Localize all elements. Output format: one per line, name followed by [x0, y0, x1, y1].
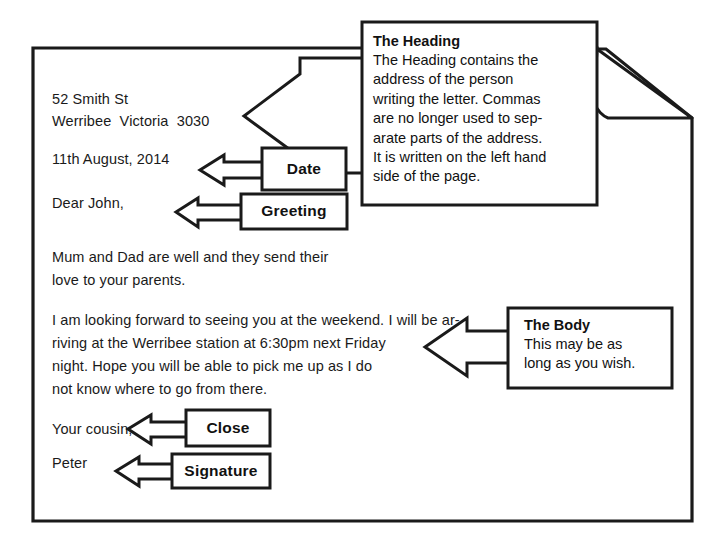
body-callout-line-1: This may be as	[524, 335, 669, 354]
letter-body-p1-line2: love to your parents.	[52, 269, 185, 292]
letter-close: Your cousin,	[52, 418, 132, 441]
body-callout: The Body This may be as long as you wish…	[524, 316, 669, 374]
heading-callout-line-1: The Heading contains the	[373, 51, 593, 70]
body-callout-line-2: long as you wish.	[524, 354, 669, 373]
heading-callout-line-4: are no longer used to sep-	[373, 109, 593, 128]
letter-signature: Peter	[52, 452, 87, 475]
heading-callout-line-5: arate parts of the address.	[373, 129, 593, 148]
heading-callout-line-2: address of the person	[373, 70, 593, 89]
heading-callout-line-6: It is written on the left hand	[373, 148, 593, 167]
date-label-text: Date	[262, 160, 346, 178]
heading-callout-line-3: writing the letter. Commas	[373, 90, 593, 109]
signature-label-text: Signature	[172, 462, 270, 480]
letter-body-p2-line1: I am looking forward to seeing you at th…	[52, 309, 460, 332]
heading-callout-line-7: side of the page.	[373, 167, 593, 186]
letter-body-p1-line1: Mum and Dad are well and they send their	[52, 246, 328, 269]
letter-body-p2-line2: riving at the Werribee station at 6:30pm…	[52, 332, 386, 355]
greeting-label-text: Greeting	[241, 202, 347, 220]
letter-heading-line2: Werribee Victoria 3030	[52, 110, 209, 133]
letter-date: 11th August, 2014	[52, 148, 170, 171]
letter-body-p2-line4: not know where to go from there.	[52, 378, 267, 401]
letter-body-p2-line3: night. Hope you will be able to pick me …	[52, 355, 372, 378]
heading-callout-title: The Heading	[373, 32, 593, 51]
letter-greeting: Dear John,	[52, 192, 124, 215]
close-label-text: Close	[186, 419, 270, 437]
letter-heading-line1: 52 Smith St	[52, 88, 128, 111]
heading-callout: The Heading The Heading contains the add…	[373, 32, 593, 187]
body-callout-title: The Body	[524, 316, 669, 335]
diagram-canvas: 52 Smith St Werribee Victoria 3030 11th …	[0, 0, 713, 546]
